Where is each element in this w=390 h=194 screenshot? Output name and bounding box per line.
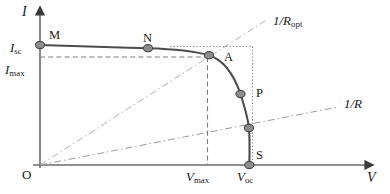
x-axis-label: V — [367, 171, 376, 185]
y-axis-label: I — [22, 5, 27, 19]
r-base: 1/R — [344, 96, 362, 111]
load-line-ray — [40, 107, 338, 165]
marker-point-s — [245, 161, 254, 168]
load-line-label-r: 1/R — [344, 97, 362, 112]
marker-point-a — [204, 52, 213, 59]
marker-point-p — [236, 90, 245, 97]
point-label-m: M — [49, 29, 60, 42]
iv-characteristic-curve — [40, 45, 250, 165]
dotted-construction-box — [170, 47, 253, 164]
point-label-s: S — [256, 149, 263, 162]
y-tick-label-imax: Imax — [5, 63, 25, 78]
vmax-base: V — [186, 169, 194, 184]
point-label-n: N — [143, 32, 152, 45]
vmax-subscript: max — [194, 175, 209, 185]
marker-point-load-intersection — [244, 124, 253, 131]
point-label-p: P — [256, 87, 263, 100]
x-tick-label-vmax: Vmax — [186, 170, 209, 185]
axis-group — [33, 14, 366, 168]
x-tick-label-voc: Voc — [237, 170, 253, 185]
point-label-a: A — [224, 51, 233, 64]
iv-curve-figure: I V O Isc Imax Vmax Voc M N A P S 1/Ropt… — [0, 0, 390, 194]
ropt-subscript: opt — [291, 19, 302, 29]
y-tick-label-isc: Isc — [10, 41, 22, 56]
load-line-label-ropt: 1/Ropt — [273, 14, 302, 29]
ropt-base: 1/R — [273, 13, 291, 28]
voc-base: V — [237, 169, 245, 184]
isc-subscript: sc — [14, 46, 21, 56]
origin-label: O — [22, 168, 31, 181]
curve-marker-group — [35, 41, 254, 168]
marker-point-n — [143, 45, 152, 52]
marker-point-m — [35, 41, 44, 48]
load-line-group — [40, 19, 338, 165]
voc-subscript: oc — [245, 175, 253, 185]
imax-subscript: max — [9, 68, 24, 78]
